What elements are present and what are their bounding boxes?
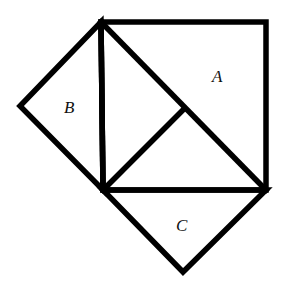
label-a: A [211,67,223,86]
pythagorean-diagram: A B C [0,0,285,282]
square-b-outline [20,22,103,190]
vertical-leg [101,22,103,190]
inner-segment [103,110,183,190]
label-c: C [176,216,188,235]
label-b: B [64,98,75,117]
